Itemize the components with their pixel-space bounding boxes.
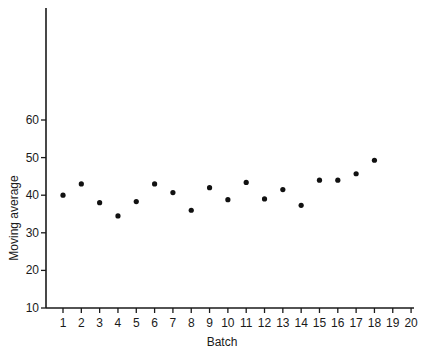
- data-point: [262, 196, 267, 201]
- data-point: [60, 193, 65, 198]
- x-tick-label: 7: [170, 316, 177, 330]
- x-tick-label: 6: [151, 316, 158, 330]
- data-point: [354, 171, 359, 176]
- data-point: [207, 185, 212, 190]
- scatter-chart: 102030405060 123456789101112131415161718…: [0, 0, 424, 359]
- x-tick-label: 9: [206, 316, 213, 330]
- x-tick-label: 14: [294, 316, 308, 330]
- x-axis: 1234567891011121314151617181920: [46, 308, 418, 330]
- x-tick-label: 15: [313, 316, 327, 330]
- data-point: [335, 178, 340, 183]
- x-tick-label: 20: [404, 316, 418, 330]
- data-point: [189, 208, 194, 213]
- data-point: [79, 181, 84, 186]
- x-tick-label: 13: [276, 316, 290, 330]
- data-point: [280, 187, 285, 192]
- y-axis: 102030405060: [26, 8, 46, 315]
- y-tick-label: 30: [26, 226, 40, 240]
- x-tick-label: 16: [331, 316, 345, 330]
- data-point: [244, 180, 249, 185]
- x-tick-label: 19: [386, 316, 400, 330]
- data-point: [372, 158, 377, 163]
- x-tick-label: 10: [221, 316, 235, 330]
- data-point: [115, 213, 120, 218]
- y-tick-label: 10: [26, 301, 40, 315]
- x-tick-label: 12: [258, 316, 272, 330]
- x-tick-label: 11: [240, 316, 253, 330]
- data-point: [170, 190, 175, 195]
- x-tick-label: 2: [78, 316, 85, 330]
- data-point: [317, 178, 322, 183]
- data-point: [134, 199, 139, 204]
- data-points: [60, 158, 377, 219]
- y-tick-label: 50: [26, 151, 40, 165]
- x-tick-label: 8: [188, 316, 195, 330]
- y-tick-label: 40: [26, 188, 40, 202]
- y-tick-label: 20: [26, 263, 40, 277]
- x-tick-label: 4: [115, 316, 122, 330]
- data-point: [152, 181, 157, 186]
- y-axis-title: Moving average: [7, 175, 21, 261]
- x-tick-label: 1: [60, 316, 67, 330]
- x-tick-label: 17: [349, 316, 363, 330]
- y-tick-label: 60: [26, 113, 40, 127]
- x-tick-label: 18: [368, 316, 382, 330]
- x-tick-label: 5: [133, 316, 140, 330]
- x-axis-title: Batch: [207, 335, 238, 349]
- data-point: [225, 197, 230, 202]
- x-tick-label: 3: [96, 316, 103, 330]
- data-point: [97, 200, 102, 205]
- data-point: [299, 203, 304, 208]
